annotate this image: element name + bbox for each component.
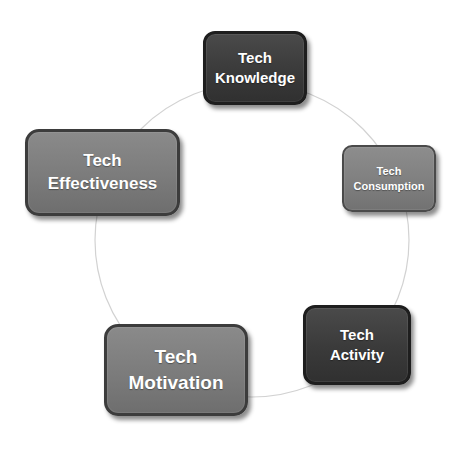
node-label-line2: Knowledge — [215, 68, 295, 88]
node-label-line1: Tech — [340, 325, 374, 345]
node-label-line1: Tech — [377, 164, 402, 179]
node-tech-motivation: Tech Motivation — [104, 324, 248, 416]
node-label-line2: Effectiveness — [48, 173, 158, 196]
node-label-line2: Motivation — [129, 370, 224, 396]
node-label-line1: Tech — [83, 150, 121, 173]
node-label-line2: Activity — [330, 345, 384, 365]
node-tech-activity: Tech Activity — [303, 305, 411, 385]
node-tech-effectiveness: Tech Effectiveness — [25, 129, 180, 216]
node-label-line2: Consumption — [354, 179, 425, 194]
cycle-diagram: Tech Knowledge Tech Consumption Tech Act… — [0, 0, 465, 452]
node-tech-consumption: Tech Consumption — [342, 145, 436, 212]
node-label-line1: Tech — [238, 48, 272, 68]
node-label-line1: Tech — [155, 344, 198, 370]
node-tech-knowledge: Tech Knowledge — [203, 31, 307, 105]
